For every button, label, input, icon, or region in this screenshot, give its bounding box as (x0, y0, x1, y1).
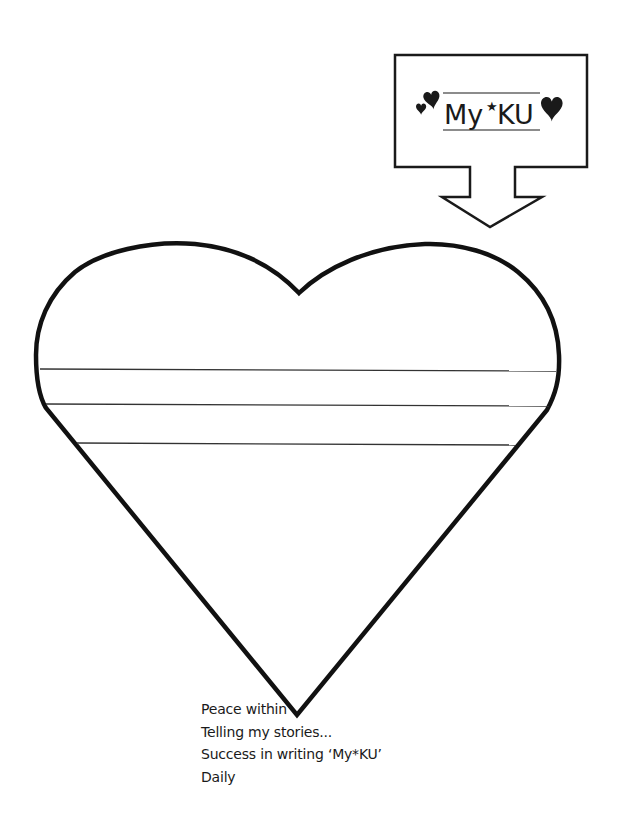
caption-text: Peace within Telling my stories... Succe… (201, 698, 382, 788)
caption-line: Daily (201, 766, 382, 789)
caption-line: Success in writing ‘My*KU’ (201, 743, 382, 766)
arrow-down-icon (395, 55, 587, 227)
star-icon: ★ (486, 99, 498, 114)
heart-writing-area (36, 243, 559, 715)
caption-line: Telling my stories... (201, 721, 382, 744)
caption-line: Peace within (201, 698, 382, 721)
heart-outline (36, 243, 559, 715)
title-ku: KU (497, 99, 534, 130)
label-box: My ★ KU (395, 55, 587, 227)
title-my: My (444, 99, 483, 130)
